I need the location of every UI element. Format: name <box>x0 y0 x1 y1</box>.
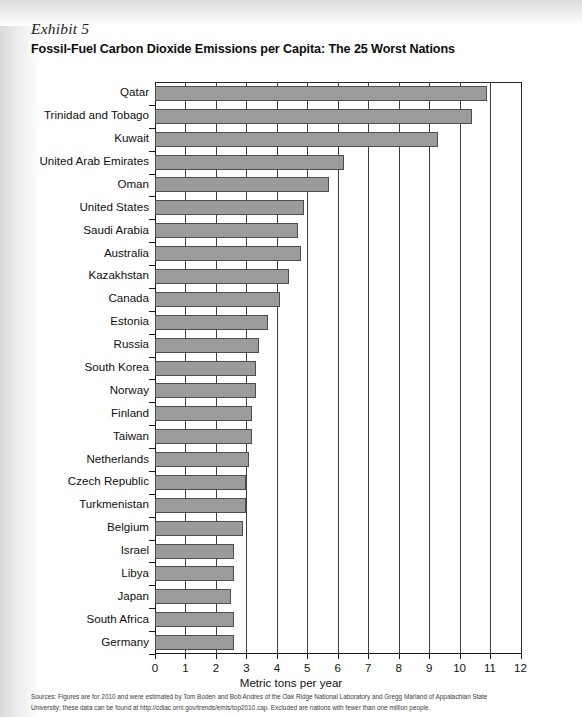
x-tick-label: 8 <box>384 662 414 674</box>
y-axis-label-row: Turkmenistan <box>22 497 149 510</box>
y-axis-label-row: Trinidad and Tobago <box>22 108 149 121</box>
y-axis-category-label: United Arab Emirates <box>22 154 149 167</box>
sources-note: Sources: Figures are for 2010 and were e… <box>31 692 571 713</box>
y-axis-category-label: South Korea <box>22 360 149 373</box>
bar <box>155 521 243 536</box>
bar <box>155 452 249 467</box>
bar <box>155 612 234 627</box>
y-axis-category-label: South Africa <box>22 612 149 625</box>
bar <box>155 361 256 376</box>
bar <box>155 315 268 330</box>
y-axis-label-row: Canada <box>22 291 149 304</box>
y-tick <box>149 517 155 518</box>
y-axis-category-label: Finland <box>22 406 149 419</box>
bar <box>155 109 472 124</box>
gridline <box>429 82 430 654</box>
y-tick <box>149 128 155 129</box>
y-tick <box>149 379 155 380</box>
y-axis-category-label: Saudi Arabia <box>22 223 149 236</box>
y-tick <box>149 288 155 289</box>
y-axis-category-label: Canada <box>22 291 149 304</box>
y-tick <box>149 471 155 472</box>
y-axis-label-row: Netherlands <box>22 452 149 465</box>
x-tick-label: 1 <box>170 662 200 674</box>
x-tick-label: 2 <box>201 662 231 674</box>
bar <box>155 566 234 581</box>
bar <box>155 383 256 398</box>
bar <box>155 429 252 444</box>
y-tick <box>149 562 155 563</box>
x-tick-label: 6 <box>323 662 353 674</box>
x-tick-label: 7 <box>353 662 383 674</box>
y-axis-label-row: South Korea <box>22 360 149 373</box>
y-axis-label-row: United Arab Emirates <box>22 154 149 167</box>
y-axis-category-label: Netherlands <box>22 452 149 465</box>
x-tick-label: 12 <box>506 662 536 674</box>
y-tick <box>149 402 155 403</box>
y-axis-category-label: Russia <box>22 337 149 350</box>
y-tick <box>149 585 155 586</box>
exhibit-label: Exhibit 5 <box>31 20 89 38</box>
bar <box>155 406 252 421</box>
bar <box>155 200 304 215</box>
x-tick <box>155 654 156 659</box>
y-tick <box>149 219 155 220</box>
y-axis-category-label: United States <box>22 200 149 213</box>
bar <box>155 246 301 261</box>
y-tick <box>149 242 155 243</box>
x-tick <box>429 654 430 659</box>
x-tick <box>460 654 461 659</box>
bar-chart: QatarTrinidad and TobagoKuwaitUnited Ara… <box>0 78 582 678</box>
y-axis-label-row: Kuwait <box>22 131 149 144</box>
y-tick <box>149 631 155 632</box>
bar <box>155 269 289 284</box>
y-axis-label-row: South Africa <box>22 612 149 625</box>
y-axis-label-row: Finland <box>22 406 149 419</box>
y-axis-category-label: Australia <box>22 246 149 259</box>
bar <box>155 132 438 147</box>
y-axis-category-label: Libya <box>22 566 149 579</box>
y-axis-label-row: Kazakhstan <box>22 268 149 281</box>
y-axis-label-row: Oman <box>22 177 149 190</box>
y-axis-category-label: Czech Republic <box>22 474 149 487</box>
y-axis-category-label: Japan <box>22 589 149 602</box>
y-axis-label-row: Taiwan <box>22 429 149 442</box>
x-tick <box>521 654 522 659</box>
y-axis-category-label: Trinidad and Tobago <box>22 108 149 121</box>
x-axis-title: Metric tons per year <box>0 676 582 689</box>
x-tick-label: 10 <box>445 662 475 674</box>
bar <box>155 475 246 490</box>
y-tick <box>149 334 155 335</box>
y-axis-label-row: Germany <box>22 635 149 648</box>
y-axis-category-label: Germany <box>22 635 149 648</box>
y-axis-category-label: Turkmenistan <box>22 497 149 510</box>
gridline <box>460 82 461 654</box>
y-axis-label-row: Estonia <box>22 314 149 327</box>
y-axis-label-row: United States <box>22 200 149 213</box>
y-tick <box>149 151 155 152</box>
gridline <box>399 82 400 654</box>
x-tick <box>185 654 186 659</box>
y-axis-label-row: Qatar <box>22 85 149 98</box>
x-tick-label: 3 <box>231 662 261 674</box>
y-tick <box>149 105 155 106</box>
y-axis-label-row: Japan <box>22 589 149 602</box>
x-tick <box>277 654 278 659</box>
y-axis-category-label: Kuwait <box>22 131 149 144</box>
y-axis-category-label: Belgium <box>22 520 149 533</box>
x-tick <box>399 654 400 659</box>
y-axis-category-label: Qatar <box>22 85 149 98</box>
x-tick-label: 11 <box>475 662 505 674</box>
y-axis-label-row: Israel <box>22 543 149 556</box>
y-tick <box>149 448 155 449</box>
y-axis-label-row: Libya <box>22 566 149 579</box>
y-tick <box>149 357 155 358</box>
y-axis-category-label: Taiwan <box>22 429 149 442</box>
y-tick <box>149 608 155 609</box>
x-tick <box>216 654 217 659</box>
y-axis-label-row: Czech Republic <box>22 474 149 487</box>
bar <box>155 498 246 513</box>
x-tick <box>307 654 308 659</box>
x-tick-label: 0 <box>140 662 170 674</box>
y-tick <box>149 425 155 426</box>
